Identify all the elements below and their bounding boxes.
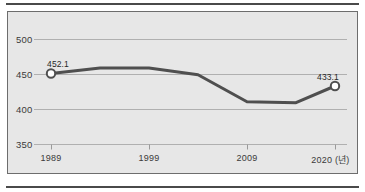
plot-area: 500 450 400 350 1989 1999 2009 2020 (년) … [8,12,357,173]
y-tick-label-400: 400 [16,104,32,115]
x-tick-label-2020: 2020 (년) [311,153,349,166]
y-tick-label-500: 500 [16,34,32,45]
chart-canvas [8,12,357,173]
data-label-start: 452.1 [47,59,69,69]
bottom-divider-rule [6,186,359,188]
marker-start [47,69,55,77]
y-tick-label-350: 350 [16,139,32,150]
x-axis-ticks [52,145,336,150]
chart-screenshot: 500 450 400 350 1989 1999 2009 2020 (년) … [0,0,365,192]
data-label-end: 433.1 [317,72,339,82]
top-divider-rule [6,3,359,5]
gridlines [34,40,347,145]
x-tick-label-2009: 2009 [237,153,258,163]
marker-end [331,82,339,90]
chart-figure: 500 450 400 350 1989 1999 2009 2020 (년) … [7,11,358,174]
y-tick-label-450: 450 [16,69,32,80]
data-line [51,68,335,103]
x-tick-label-1999: 1999 [139,153,160,163]
x-tick-label-1989: 1989 [41,153,62,163]
